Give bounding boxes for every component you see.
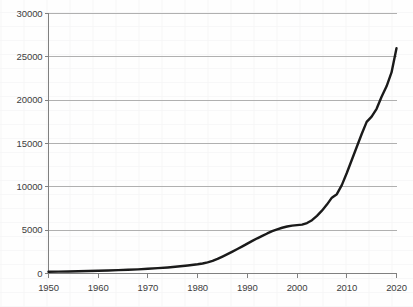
y-tick-label: 25000 xyxy=(0,51,43,62)
line-chart-plot xyxy=(0,0,413,307)
x-tick-label: 1950 xyxy=(24,282,74,293)
x-tick-label: 1960 xyxy=(73,282,123,293)
y-tick-label: 10000 xyxy=(0,181,43,192)
y-tick-label: 5000 xyxy=(0,224,43,235)
x-tick-label: 1990 xyxy=(222,282,272,293)
y-tick-label: 30000 xyxy=(0,8,43,19)
x-tick-label: 2010 xyxy=(322,282,372,293)
y-tick-label: 0 xyxy=(0,268,43,279)
x-tick-label: 1970 xyxy=(123,282,173,293)
x-tick-label: 2020 xyxy=(372,282,413,293)
y-tick-label: 15000 xyxy=(0,138,43,149)
x-tick-label: 1980 xyxy=(173,282,223,293)
y-tick-label: 20000 xyxy=(0,94,43,105)
x-tick-label: 2000 xyxy=(272,282,322,293)
data-series-line xyxy=(49,48,397,272)
chart-container: 050001000015000200002500030000 195019601… xyxy=(0,0,413,307)
